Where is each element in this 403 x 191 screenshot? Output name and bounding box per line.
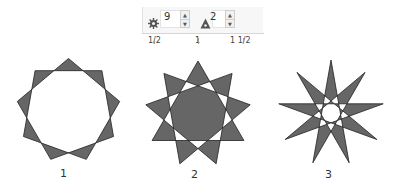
figure-label-2: 2 [191,168,198,181]
star-polygon-2 [146,61,250,164]
star-polygon-1 [17,59,119,160]
star-polygon-3 [279,60,383,163]
figure-label-1: 1 [60,167,67,180]
figure-label-3: 3 [325,168,332,181]
star-polygon-figures [0,0,403,191]
